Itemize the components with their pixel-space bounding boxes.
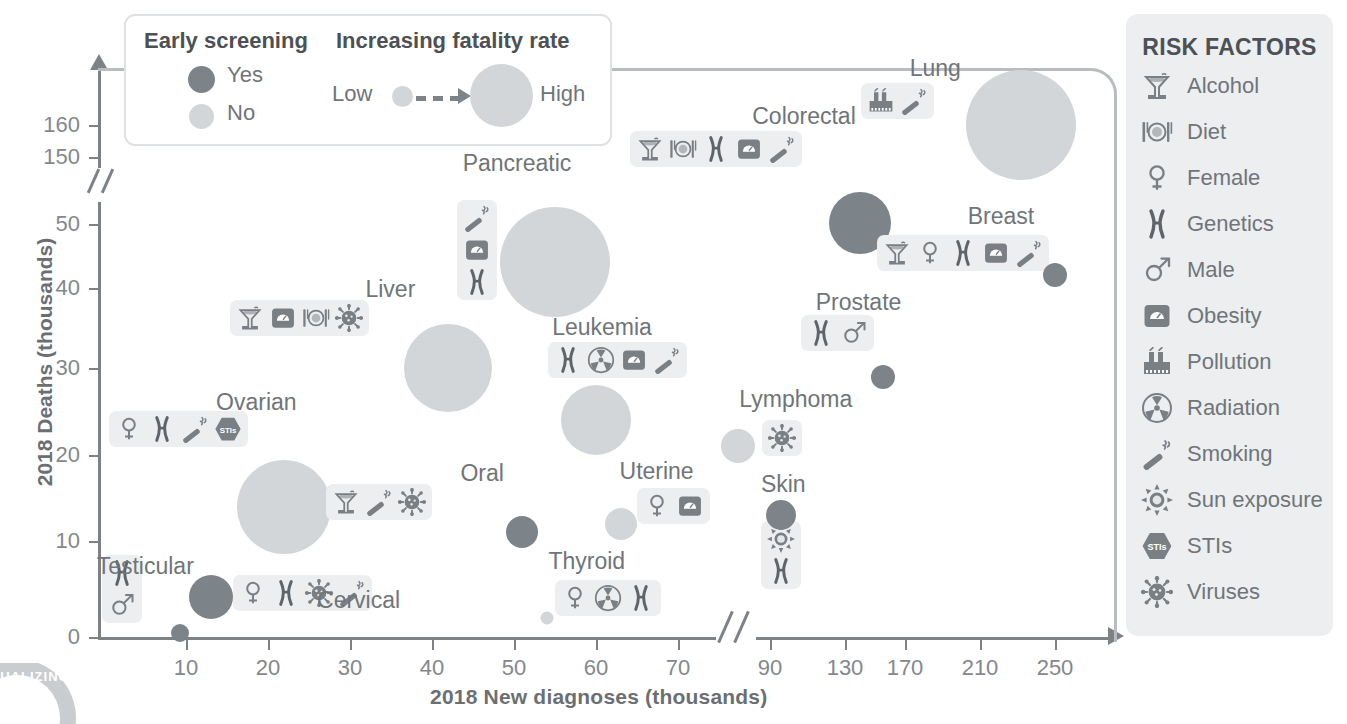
risk-factor-row-alcohol[interactable]: Alcohol xyxy=(1140,66,1259,106)
bubble-liver[interactable] xyxy=(404,324,492,412)
bubble-skin[interactable] xyxy=(766,500,796,530)
risk-factor-row-female[interactable]: Female xyxy=(1140,158,1260,198)
smoking-icon xyxy=(181,415,209,443)
risk-factor-chips-prostate xyxy=(801,315,874,351)
risk-factor-chips-lung xyxy=(861,83,934,119)
risk-factor-chips-ovarian: STIs xyxy=(109,411,248,447)
point-label-pancreatic: Pancreatic xyxy=(463,150,572,177)
risk-factor-row-obesity[interactable]: Obesity xyxy=(1140,296,1262,336)
smoking-icon xyxy=(653,346,681,374)
point-label-oral: Oral xyxy=(460,460,503,487)
y-tick xyxy=(89,288,100,290)
bubble-lymphoma[interactable] xyxy=(721,429,755,463)
x-tick xyxy=(186,639,188,650)
point-label-skin: Skin xyxy=(761,471,806,498)
risk-factor-row-viruses[interactable]: Viruses xyxy=(1140,572,1260,612)
x-tick xyxy=(678,639,680,650)
y-tick xyxy=(89,157,100,159)
viruses-icon xyxy=(1140,575,1174,609)
svg-text:STIs: STIs xyxy=(220,425,237,434)
risk-factors-title: RISK FACTORS xyxy=(1126,34,1333,61)
x-tick-label: 250 xyxy=(1037,655,1074,681)
risk-factor-chips-thyroid xyxy=(555,580,661,616)
alcohol-icon xyxy=(236,304,264,332)
y-tick-label: 160 xyxy=(22,112,80,138)
smoking-icon xyxy=(900,87,928,115)
pollution-icon xyxy=(867,87,895,115)
x-tick xyxy=(432,639,434,650)
bubble-lung[interactable] xyxy=(966,70,1076,180)
risk-factor-label: Genetics xyxy=(1187,211,1274,237)
bubble-oral[interactable] xyxy=(506,516,538,548)
risk-factor-label: Diet xyxy=(1187,119,1226,145)
watermark-text: VISUALIZING xyxy=(0,669,76,684)
x-tick xyxy=(845,639,847,650)
point-label-ovarian: Ovarian xyxy=(216,389,297,416)
bubble-ovarian[interactable] xyxy=(237,460,331,554)
x-tick xyxy=(350,639,352,650)
point-label-lymphoma: Lymphoma xyxy=(739,386,852,413)
visualizing-watermark: VISUALIZING xyxy=(0,663,118,724)
bubble-testicular[interactable] xyxy=(171,624,189,642)
risk-factor-row-radiation[interactable]: Radiation xyxy=(1140,388,1280,428)
legend-fatality-title: Increasing fatality rate xyxy=(336,28,570,54)
point-label-cervical: Cervical xyxy=(317,587,400,614)
pollution-icon xyxy=(1140,345,1174,379)
genetics-icon xyxy=(949,239,977,267)
genetics-icon xyxy=(148,415,176,443)
risk-factor-row-diet[interactable]: Diet xyxy=(1140,112,1226,152)
x-tick-label: 70 xyxy=(666,655,690,681)
risk-factor-chips-leukemia xyxy=(548,342,687,378)
radiation-icon xyxy=(594,584,622,612)
risk-factor-label: STIs xyxy=(1187,533,1232,559)
x-tick-label: 50 xyxy=(502,655,526,681)
male-icon xyxy=(1140,253,1174,287)
point-label-colorectal: Colorectal xyxy=(752,103,856,130)
y-axis-break-icon xyxy=(86,168,120,202)
legend-label-low: Low xyxy=(332,81,372,107)
x-axis-break-icon xyxy=(716,608,756,646)
risk-factor-label: Female xyxy=(1187,165,1260,191)
bubble-breast[interactable] xyxy=(1043,263,1067,287)
y-axis-arrow-icon xyxy=(90,54,108,70)
y-tick-label: 10 xyxy=(22,528,80,554)
genetics-icon xyxy=(1140,207,1174,241)
x-tick xyxy=(1055,639,1057,650)
legend-label-high: High xyxy=(540,81,585,107)
x-axis-arrow-icon xyxy=(1108,627,1124,645)
obesity-icon xyxy=(463,236,491,264)
obesity-icon xyxy=(620,346,648,374)
smoking-icon xyxy=(365,488,393,516)
y-tick xyxy=(89,125,100,127)
risk-factor-row-stis[interactable]: STIsSTIs xyxy=(1140,526,1232,566)
risk-factor-row-male[interactable]: Male xyxy=(1140,250,1235,290)
risk-factor-row-genetics[interactable]: Genetics xyxy=(1140,204,1274,244)
risk-factor-chips-oral xyxy=(326,484,432,520)
bubble-uterine[interactable] xyxy=(605,508,637,540)
risk-factor-chips-pancreatic xyxy=(457,200,497,300)
genetics-icon xyxy=(554,346,582,374)
risk-factor-row-sun-exposure[interactable]: Sun exposure xyxy=(1140,480,1323,520)
x-tick xyxy=(980,639,982,650)
risk-factor-row-smoking[interactable]: Smoking xyxy=(1140,434,1273,474)
x-tick-label: 210 xyxy=(962,655,999,681)
risk-factor-label: Male xyxy=(1187,257,1235,283)
risk-factor-label: Alcohol xyxy=(1187,73,1259,99)
bubble-thyroid[interactable] xyxy=(540,611,553,624)
risk-factor-chips-skin xyxy=(761,521,801,589)
risk-factor-row-pollution[interactable]: Pollution xyxy=(1140,342,1271,382)
point-label-liver: Liver xyxy=(365,276,415,303)
chart-legend: Early screening Yes No Increasing fatali… xyxy=(124,14,612,146)
bubble-prostate[interactable] xyxy=(871,365,895,389)
bubble-leukemia[interactable] xyxy=(561,385,631,455)
legend-dot-no xyxy=(189,104,214,129)
bubble-pancreatic[interactable] xyxy=(500,207,610,317)
alcohol-icon xyxy=(1140,69,1174,103)
female-icon xyxy=(1140,161,1174,195)
x-tick xyxy=(596,639,598,650)
x-tick-label: 40 xyxy=(420,655,444,681)
bubble-cervical[interactable] xyxy=(189,575,233,619)
legend-label-no: No xyxy=(227,100,255,126)
x-tick-label: 170 xyxy=(887,655,924,681)
legend-arrow-line xyxy=(416,96,460,101)
